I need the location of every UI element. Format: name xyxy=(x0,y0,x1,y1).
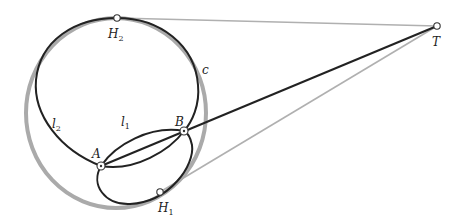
label-c: c xyxy=(202,63,209,77)
label-t: T xyxy=(432,35,441,49)
tangent-line-h2-t xyxy=(117,18,437,26)
line-a-t xyxy=(101,26,437,166)
tangent-line-h1-t xyxy=(160,26,437,192)
label-l1: l1 xyxy=(121,115,130,131)
label-b: B xyxy=(174,115,184,129)
point-h2 xyxy=(114,15,120,21)
point-t xyxy=(434,23,440,29)
point-h1 xyxy=(157,189,163,195)
label-a: A xyxy=(91,147,101,161)
label-l2: l2 xyxy=(52,117,61,133)
label-h2: H2 xyxy=(107,27,124,43)
geometry-diagram: H2 T A B H1 c l1 l2 xyxy=(0,0,461,221)
point-a xyxy=(97,162,105,170)
label-h1: H1 xyxy=(157,201,174,217)
